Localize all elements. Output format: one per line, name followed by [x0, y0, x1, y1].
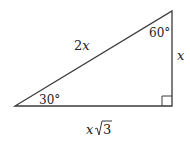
vertical-side-label: x	[177, 48, 185, 63]
horizontal-side-var: x	[86, 122, 94, 137]
angle-label-60: 60°	[149, 26, 170, 40]
triangle-diagram: 60° 30° 2x x x 3	[0, 0, 190, 143]
right-angle-marker	[162, 96, 172, 106]
hypotenuse-var: x	[82, 38, 90, 53]
horizontal-side-radicand: 3	[103, 122, 111, 137]
hypotenuse-label: 2x	[74, 38, 90, 53]
angle-label-30: 30°	[39, 93, 60, 107]
hypotenuse-coef: 2	[74, 38, 82, 53]
